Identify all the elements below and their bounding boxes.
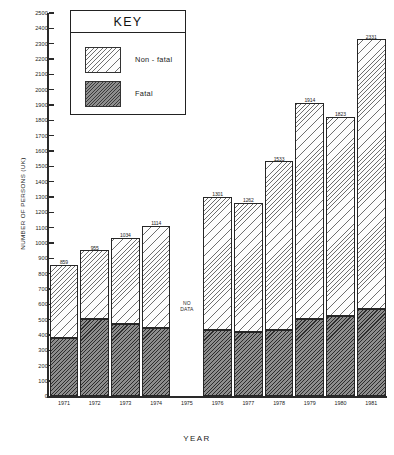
y-tick-label: 2000 bbox=[8, 87, 48, 93]
x-axis-line bbox=[47, 396, 387, 397]
x-tick-label: 1973 bbox=[110, 400, 141, 406]
bar-segment-fatal: 503 bbox=[295, 319, 324, 396]
legend-box: KEY Non - fatal Fatal bbox=[70, 10, 186, 115]
y-tick-label: 1900 bbox=[8, 102, 48, 108]
bar-value-total: 2331 bbox=[366, 34, 377, 40]
no-data-note: NO DATA bbox=[172, 300, 203, 312]
bar-1978: 4301533 bbox=[265, 161, 294, 396]
bar-1972: 503955 bbox=[80, 250, 109, 396]
y-tick-label: 1600 bbox=[8, 148, 48, 154]
x-tick-label: 1975 bbox=[172, 400, 203, 406]
no-data-line-2: DATA bbox=[172, 306, 203, 312]
bar-1971: 381859 bbox=[50, 265, 79, 397]
bar-segment-non-fatal: 1262 bbox=[234, 203, 263, 333]
bar-segment-non-fatal: 955 bbox=[80, 250, 109, 319]
y-tick-label: 200 bbox=[8, 363, 48, 369]
y-tick-label: 1700 bbox=[8, 133, 48, 139]
x-tick-label: 1972 bbox=[79, 400, 110, 406]
x-tick-label: 1974 bbox=[141, 400, 172, 406]
bar-segment-fatal: 436 bbox=[203, 330, 232, 397]
y-tick-label: 1500 bbox=[8, 163, 48, 169]
bar-1974: 4491114 bbox=[142, 226, 171, 397]
bar-chart: NUMBER OF PERSONS (UK) YEAR 010020030040… bbox=[0, 0, 394, 455]
bar-value-total: 1823 bbox=[335, 111, 346, 117]
y-tick-label: 1400 bbox=[8, 179, 48, 185]
x-tick-label: 1978 bbox=[264, 400, 295, 406]
y-tick-label: 900 bbox=[8, 255, 48, 261]
bar-value-total: 1114 bbox=[151, 220, 161, 226]
y-tick-label: 1800 bbox=[8, 117, 48, 123]
bar-segment-fatal: 503 bbox=[80, 319, 109, 396]
y-tick-label: 100 bbox=[8, 378, 48, 384]
y-tick-label: 2200 bbox=[8, 56, 48, 62]
legend-swatch-non-fatal bbox=[85, 47, 121, 73]
legend-title: KEY bbox=[71, 15, 185, 29]
y-tick-label: 1200 bbox=[8, 209, 48, 215]
bar-segment-non-fatal: 859 bbox=[50, 265, 79, 338]
x-tick-label: 1981 bbox=[356, 400, 387, 406]
bar-1981: 5722331 bbox=[357, 39, 386, 396]
y-tick-label: 1300 bbox=[8, 194, 48, 200]
bar-segment-fatal: 474 bbox=[111, 324, 140, 397]
bar-segment-fatal: 381 bbox=[50, 338, 79, 396]
bar-1977: 4171262 bbox=[234, 203, 263, 397]
x-tick-label: 1980 bbox=[325, 400, 356, 406]
bar-1973: 4741034 bbox=[111, 238, 140, 397]
bar-value-total: 1914 bbox=[304, 97, 315, 103]
y-tick-label: 2300 bbox=[8, 41, 48, 47]
y-tick-label: 600 bbox=[8, 301, 48, 307]
bar-1976: 4361301 bbox=[203, 197, 232, 397]
legend-label-non-fatal: Non - fatal bbox=[135, 55, 172, 64]
y-tick-label: 700 bbox=[8, 286, 48, 292]
bar-value-total: 1301 bbox=[212, 191, 223, 197]
y-tick-label: 300 bbox=[8, 347, 48, 353]
y-tick-label: 2400 bbox=[8, 25, 48, 31]
x-tick-label: 1977 bbox=[233, 400, 264, 406]
x-tick-label: 1976 bbox=[202, 400, 233, 406]
y-tick-label: 500 bbox=[8, 317, 48, 323]
legend-swatch-fatal bbox=[85, 81, 121, 107]
bar-segment-non-fatal: 1114 bbox=[142, 226, 171, 328]
legend-item-non-fatal: Non - fatal bbox=[85, 47, 177, 75]
x-tick-label: 1971 bbox=[49, 400, 80, 406]
y-tick-label: 1100 bbox=[8, 225, 48, 231]
bar-segment-fatal: 430 bbox=[265, 330, 294, 396]
y-tick-label: 0 bbox=[8, 393, 48, 399]
bar-value-total: 955 bbox=[91, 245, 99, 251]
x-tick-label: 1979 bbox=[294, 400, 325, 406]
bar-segment-non-fatal: 1034 bbox=[111, 238, 140, 324]
bar-value-total: 859 bbox=[60, 259, 68, 265]
bar-segment-non-fatal: 1301 bbox=[203, 197, 232, 330]
bar-segment-fatal: 449 bbox=[142, 328, 171, 397]
bar-value-total: 1262 bbox=[243, 197, 254, 203]
y-tick-label: 800 bbox=[8, 271, 48, 277]
bar-segment-non-fatal: 2331 bbox=[357, 39, 386, 309]
bar-segment-fatal: 417 bbox=[234, 332, 263, 396]
bar-value-total: 1034 bbox=[120, 232, 131, 238]
y-tick-label: 1000 bbox=[8, 240, 48, 246]
x-axis-title: YEAR bbox=[0, 434, 394, 443]
bar-segment-fatal: 525 bbox=[326, 316, 355, 397]
bar-1980: 5251823 bbox=[326, 117, 355, 397]
y-tick-label: 2500 bbox=[8, 10, 48, 16]
bar-1979: 5031914 bbox=[295, 103, 324, 397]
legend-item-fatal: Fatal bbox=[85, 81, 177, 109]
bar-value-total: 1533 bbox=[274, 156, 285, 162]
y-tick-label: 2100 bbox=[8, 71, 48, 77]
bar-segment-non-fatal: 1914 bbox=[295, 103, 324, 319]
bar-segment-non-fatal: 1823 bbox=[326, 117, 355, 316]
bar-segment-non-fatal: 1533 bbox=[265, 161, 294, 330]
y-tick-label: 400 bbox=[8, 332, 48, 338]
bar-segment-fatal: 572 bbox=[357, 309, 386, 397]
legend-label-fatal: Fatal bbox=[135, 89, 153, 98]
